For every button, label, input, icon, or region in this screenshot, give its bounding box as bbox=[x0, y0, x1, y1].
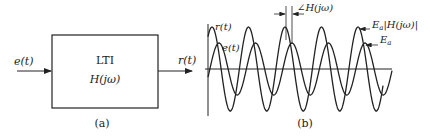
caption-a: (a) bbox=[94, 117, 109, 130]
caption-b: (b) bbox=[297, 117, 313, 130]
phase-label: ∠H(jω) bbox=[297, 2, 333, 13]
output-label: r(t) bbox=[178, 54, 196, 67]
input-amplitude-label: Ea bbox=[379, 34, 392, 47]
input-label: e(t) bbox=[14, 55, 34, 68]
block-transfer-function: H(jω) bbox=[89, 73, 121, 86]
r-signal-label: r(t) bbox=[215, 21, 232, 32]
lti-figure: e(t) LTI H(jω) r(t) (a) r(t) e(t) ∠H(jω)… bbox=[0, 0, 430, 138]
waveform-plot: r(t) e(t) ∠H(jω) Ea|H(jω)| Ea (b) bbox=[205, 2, 418, 130]
e-signal-label: e(t) bbox=[222, 42, 240, 53]
block-title: LTI bbox=[96, 54, 114, 67]
lti-block bbox=[52, 35, 158, 108]
block-diagram: e(t) LTI H(jω) r(t) (a) bbox=[14, 35, 196, 130]
output-amplitude-label: Ea|H(jω)| bbox=[371, 19, 418, 32]
